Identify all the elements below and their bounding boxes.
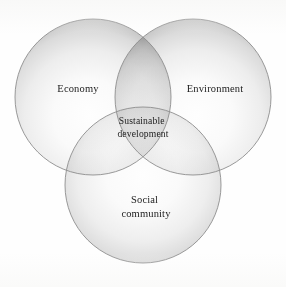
venn-diagram: Economy Environment Social community Sus…	[0, 0, 286, 287]
label-economy: Economy	[57, 83, 99, 94]
label-social-community-line-2: community	[121, 208, 171, 219]
label-sustainable-development-line-1: Sustainable	[119, 115, 165, 126]
venn-diagram-canvas: Economy Environment Social community Sus…	[0, 0, 286, 287]
venn-circle-group	[15, 19, 271, 263]
label-sustainable-development-line-2: development	[117, 128, 168, 139]
label-social-community-line-1: Social	[131, 194, 158, 205]
label-environment: Environment	[187, 83, 243, 94]
